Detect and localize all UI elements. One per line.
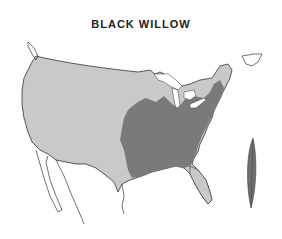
texas-coast-outline bbox=[122, 184, 124, 214]
florida-region bbox=[190, 166, 212, 204]
willow-leaf-icon bbox=[247, 138, 255, 208]
nova-scotia-outline bbox=[242, 54, 262, 66]
range-map bbox=[0, 0, 282, 239]
